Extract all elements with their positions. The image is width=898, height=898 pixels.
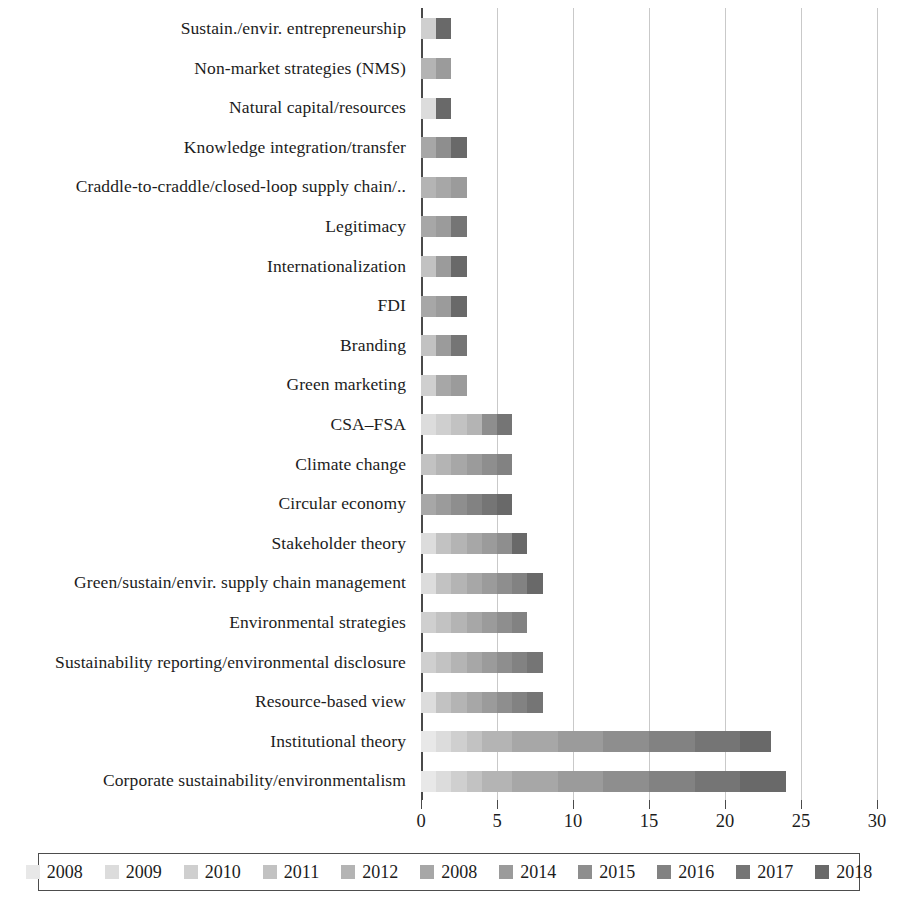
bar-segment: [451, 177, 466, 198]
stacked-bar[interactable]: [421, 256, 467, 277]
bar-segment: [497, 612, 512, 633]
legend-item[interactable]: 2017: [736, 862, 793, 883]
category-label: Environmental strategies: [229, 602, 414, 644]
bar-segment: [421, 692, 436, 713]
legend-swatch-icon: [815, 865, 829, 879]
legend-item[interactable]: 2009: [105, 862, 162, 883]
legend-item[interactable]: 2016: [657, 862, 714, 883]
legend-item[interactable]: 2018: [815, 862, 872, 883]
table-row: [421, 48, 877, 90]
stacked-bar[interactable]: [421, 216, 467, 237]
category-label: Sustain./envir. entrepreneurship: [181, 8, 414, 50]
bar-segment: [512, 573, 527, 594]
bar-segment: [436, 177, 451, 198]
stacked-bar[interactable]: [421, 573, 543, 594]
table-row: [421, 602, 877, 644]
category-label: Green/sustain/envir. supply chain manage…: [74, 562, 414, 604]
table-row: [421, 444, 877, 486]
table-row: [421, 127, 877, 169]
category-label: Craddle-to-craddle/closed-loop supply ch…: [76, 166, 414, 208]
bar-segment: [695, 771, 741, 792]
legend-item[interactable]: 2008: [26, 862, 83, 883]
table-row: [421, 681, 877, 723]
bar-segment: [740, 731, 770, 752]
legend-item[interactable]: 2015: [578, 862, 635, 883]
stacked-bar-chart: Sustain./envir. entrepreneurshipNon-mark…: [0, 0, 898, 898]
bar-segment: [451, 573, 466, 594]
stacked-bar[interactable]: [421, 177, 467, 198]
stacked-bar[interactable]: [421, 692, 543, 713]
bar-segment: [421, 335, 436, 356]
category-label: Sustainability reporting/environmental d…: [55, 642, 414, 684]
stacked-bar[interactable]: [421, 454, 512, 475]
legend-item[interactable]: 2008: [420, 862, 477, 883]
stacked-bar[interactable]: [421, 533, 527, 554]
bar-segment: [482, 652, 497, 673]
bar-segment: [497, 692, 512, 713]
bar-segment: [436, 98, 451, 119]
stacked-bar[interactable]: [421, 335, 467, 356]
table-row: [421, 404, 877, 446]
stacked-bar[interactable]: [421, 98, 451, 119]
bar-segment: [603, 771, 649, 792]
stacked-bar[interactable]: [421, 612, 527, 633]
bar-segment: [436, 137, 451, 158]
stacked-bar[interactable]: [421, 375, 467, 396]
bar-segment: [467, 612, 482, 633]
stacked-bar[interactable]: [421, 137, 467, 158]
bar-segment: [467, 573, 482, 594]
bar-segment: [512, 731, 558, 752]
legend-item[interactable]: 2010: [184, 862, 241, 883]
legend-label: 2008: [47, 862, 83, 883]
chart-legend: 2008200920102011201220082014201520162017…: [38, 853, 860, 891]
bar-segment: [421, 98, 436, 119]
bar-segment: [451, 335, 466, 356]
bar-segment: [512, 771, 558, 792]
bar-segment: [436, 731, 451, 752]
stacked-bar[interactable]: [421, 296, 467, 317]
stacked-bar[interactable]: [421, 652, 543, 673]
legend-swatch-icon: [105, 865, 119, 879]
category-labels: Sustain./envir. entrepreneurshipNon-mark…: [0, 8, 414, 800]
x-axis: 051015202530: [421, 800, 877, 840]
table-row: [421, 760, 877, 802]
stacked-bar[interactable]: [421, 494, 512, 515]
x-tick-label: 30: [868, 811, 887, 832]
legend-label: 2008: [441, 862, 477, 883]
bar-segment: [482, 692, 497, 713]
legend-item[interactable]: 2012: [341, 862, 398, 883]
bar-segment: [649, 731, 695, 752]
x-tick-label: 10: [564, 811, 583, 832]
bar-segment: [467, 414, 482, 435]
x-tick-label: 0: [416, 811, 425, 832]
x-tick-label: 20: [716, 811, 735, 832]
bar-segment: [436, 612, 451, 633]
bar-segment: [467, 454, 482, 475]
bar-segment: [467, 692, 482, 713]
bar-segment: [451, 216, 466, 237]
stacked-bar[interactable]: [421, 771, 786, 792]
bar-segment: [512, 533, 527, 554]
category-label: Climate change: [295, 444, 414, 486]
x-tick: [497, 800, 498, 809]
stacked-bar[interactable]: [421, 414, 512, 435]
legend-swatch-icon: [263, 865, 277, 879]
legend-item[interactable]: 2011: [263, 862, 319, 883]
stacked-bar[interactable]: [421, 58, 451, 79]
x-tick: [421, 800, 422, 809]
legend-swatch-icon: [26, 865, 40, 879]
legend-label: 2016: [678, 862, 714, 883]
bar-segment: [482, 454, 497, 475]
stacked-bar[interactable]: [421, 18, 451, 39]
stacked-bar[interactable]: [421, 731, 771, 752]
bar-segment: [512, 692, 527, 713]
bar-segment: [451, 454, 466, 475]
x-tick: [877, 800, 878, 809]
legend-swatch-icon: [184, 865, 198, 879]
bar-segment: [421, 375, 436, 396]
bar-segment: [482, 573, 497, 594]
table-row: [421, 285, 877, 327]
legend-item[interactable]: 2014: [499, 862, 556, 883]
bar-segment: [451, 612, 466, 633]
legend-swatch-icon: [736, 865, 750, 879]
